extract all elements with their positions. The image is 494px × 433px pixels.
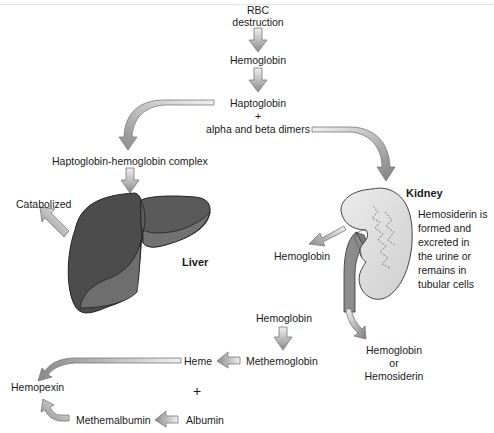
hemoglobin-kidney-label: Hemoglobin [274, 250, 330, 262]
note-line: the urine or [418, 249, 487, 263]
arrow-down-icon [274, 327, 292, 350]
hemoglobin-top-label: Hemoglobin [218, 54, 298, 66]
arrow-down-icon [346, 309, 366, 339]
or-label: or [354, 357, 434, 369]
curved-arrow-up-left-icon [41, 399, 69, 421]
haptoglobin-label: Haptoglobin [218, 97, 298, 109]
arrow-down-icon [121, 168, 139, 193]
note-line: tubular cells [418, 277, 487, 291]
hemoglobin-bottom-label: Hemoglobin [244, 312, 324, 324]
plus-bottom-label: + [193, 384, 201, 398]
arrow-down-icon [249, 28, 267, 52]
hemoglobin-or-label: Hemoglobin [354, 344, 434, 356]
plus-top-label: + [248, 110, 268, 122]
destruction-label: destruction [218, 16, 298, 28]
hemosiderin-label: Hemosiderin [354, 370, 434, 382]
note-line: remains in [418, 263, 487, 277]
kidney-label: Kidney [406, 187, 443, 199]
albumin-label: Albumin [186, 414, 224, 426]
arrow-left-icon [217, 352, 240, 368]
curved-arrow-left-icon [38, 358, 181, 381]
note-line: formed and [418, 221, 487, 235]
liver-illustration [68, 193, 210, 313]
arrow-up-left-icon [40, 207, 69, 237]
note-line: Hemosiderin is [418, 207, 487, 221]
hemosiderin-note: Hemosiderin is formed and excreted in th… [418, 207, 487, 291]
kidney-illustration [341, 188, 412, 312]
alpha-beta-dimers-label: alpha and beta dimers [198, 123, 318, 135]
arrow-down-icon [249, 68, 267, 92]
liver-label: Liver [182, 256, 208, 268]
methemoglobin-label: Methemoglobin [246, 355, 318, 367]
curved-arrow-right-icon [312, 127, 395, 181]
arrow-left-icon [155, 411, 178, 427]
heme-label: Heme [184, 355, 212, 367]
note-line: excreted in [418, 235, 487, 249]
methemalbumin-label: Methemalbumin [76, 414, 151, 426]
catabolized-label: Catabolized [16, 198, 71, 210]
arrow-down-left-icon [309, 226, 346, 246]
rbc-label: RBC [228, 4, 288, 16]
hemopexin-label: Hemopexin [11, 381, 64, 393]
haptoglobin-hemoglobin-complex-label: Haptoglobin-hemoglobin complex [52, 155, 208, 167]
